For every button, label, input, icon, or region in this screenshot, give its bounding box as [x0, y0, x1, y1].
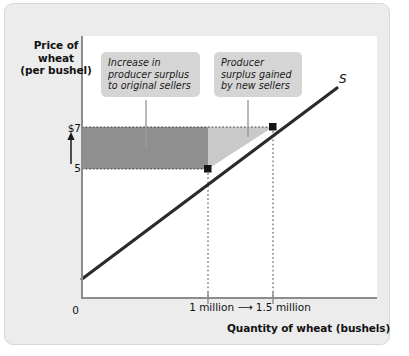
- y-axis-title-line-3: (per bushel): [15, 64, 97, 77]
- callout-new-sellers: Producer surplus gained by new sellers: [214, 52, 302, 97]
- supply-curve-label: S: [339, 72, 347, 86]
- point-original-equilibrium: [204, 165, 212, 173]
- y-axis-title-line-2: wheat: [15, 52, 97, 65]
- y-tick-label-5: 5: [57, 162, 81, 174]
- y-tick-label-7: $7: [57, 122, 81, 134]
- x-range-label: 1 million ⟶ 1.5 million: [155, 301, 345, 313]
- x-axis-title: Quantity of wheat (bushels): [227, 322, 399, 335]
- y-axis-title: Price of wheat (per bushel): [15, 39, 97, 77]
- point-new-equilibrium: [269, 123, 277, 131]
- origin-label: 0: [61, 304, 79, 316]
- price-increase-arrow: [67, 132, 74, 164]
- callout-original-sellers: Increase in producer surplus to original…: [101, 52, 200, 97]
- figure-card: Price of wheat (per bushel) Quantity of …: [4, 3, 390, 345]
- y-axis-title-line-1: Price of: [15, 39, 97, 52]
- region-original-surplus: [82, 127, 208, 169]
